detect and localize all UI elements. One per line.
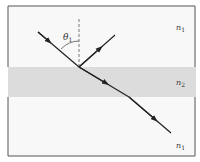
refraction-diagram: θ1 n1 n2 n1 <box>0 0 200 162</box>
slab-n2 <box>8 67 196 97</box>
